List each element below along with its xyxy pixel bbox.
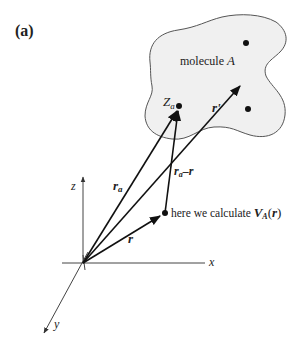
- nucleus-dot: [243, 40, 249, 46]
- nucleus-dot: [245, 106, 251, 112]
- x-axis-label: x: [208, 255, 215, 269]
- r-a-label: ra: [113, 178, 123, 194]
- nucleus-za-dot: [176, 103, 182, 109]
- y-axis-label: y: [53, 317, 60, 331]
- vector-r: [83, 216, 160, 263]
- panel-label: (a): [15, 22, 34, 40]
- molecule-region: [145, 15, 286, 139]
- r-a-minus-r-label: ra–r: [174, 164, 194, 179]
- r-prime-label: r': [212, 100, 221, 115]
- calculation-point: [162, 210, 168, 216]
- calculation-point-label: here we calculate VA(r): [171, 205, 281, 221]
- z-axis-label: z: [70, 179, 76, 193]
- y-axis: [44, 252, 88, 333]
- molecule-label: molecule A: [180, 53, 235, 68]
- diagram: (a) molecule A z x y ra r' r ra–r Za her…: [0, 0, 300, 355]
